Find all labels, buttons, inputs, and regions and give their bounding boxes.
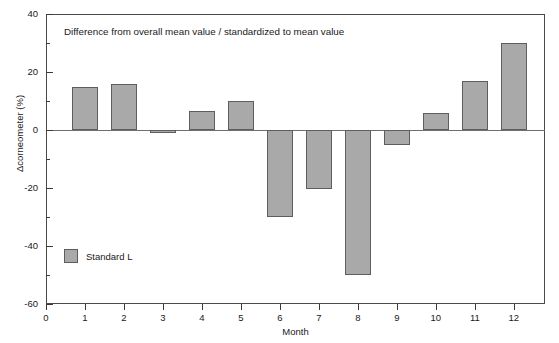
x-axis-tick [163,304,164,310]
y-axis-tick-label: 40 [8,9,38,19]
y-axis-minor-tick [46,159,50,160]
x-axis-tick-label: 6 [268,312,292,323]
x-axis-tick-label: 2 [112,312,136,323]
y-axis-minor-tick [46,43,50,44]
x-axis-tick [280,304,281,310]
x-axis-tick-label: 1 [73,312,97,323]
zero-baseline [46,130,545,131]
x-axis-title: Month [46,326,545,337]
bar [345,130,371,275]
y-axis-minor-tick [46,101,50,102]
bar [72,87,98,131]
bar-chart: Difference from overall mean value / sta… [0,0,559,343]
x-axis-tick-label: 5 [229,312,253,323]
y-axis-title: Δcorneometer (%) [14,59,25,209]
x-axis-tick [241,304,242,310]
x-axis-tick [124,304,125,310]
x-axis-tick-label: 7 [307,312,331,323]
y-axis-tick-label: -40 [8,241,38,251]
x-axis-tick-label: 10 [424,312,448,323]
x-axis-tick [514,304,515,310]
x-axis-tick [358,304,359,310]
x-axis-tick-label: 4 [190,312,214,323]
bar [462,81,488,130]
x-axis-tick [475,304,476,310]
bar [501,43,527,130]
y-axis-tick [46,304,53,305]
y-axis-tick-label: -60 [8,299,38,309]
x-axis-tick-label: 12 [502,312,526,323]
x-axis-tick-label: 9 [385,312,409,323]
x-axis-tick-label: 8 [346,312,370,323]
y-axis-minor-tick [46,275,50,276]
y-axis-tick [46,72,53,73]
chart-legend: Standard L [64,249,132,263]
x-axis-tick-label: 11 [463,312,487,323]
y-axis-tick [46,14,53,15]
bar [423,113,449,130]
x-axis-tick [202,304,203,310]
x-axis-tick-label: 0 [34,312,58,323]
x-axis-tick [85,304,86,310]
y-axis-minor-tick [46,217,50,218]
x-axis-tick [319,304,320,310]
x-axis-tick [397,304,398,310]
y-axis-tick [46,130,53,131]
legend-swatch-standard-l [64,249,78,263]
y-axis-tick [46,188,53,189]
bar [228,101,254,130]
bar [306,130,332,189]
bar [189,111,215,130]
y-axis-tick [46,246,53,247]
legend-label-standard-l: Standard L [86,251,132,262]
bar [267,130,293,217]
plot-annotation: Difference from overall mean value / sta… [64,26,344,38]
x-axis-tick [436,304,437,310]
bar [111,84,137,130]
bar [150,130,176,133]
x-axis-tick [46,304,47,310]
x-axis-tick-label: 3 [151,312,175,323]
bar [384,130,410,145]
